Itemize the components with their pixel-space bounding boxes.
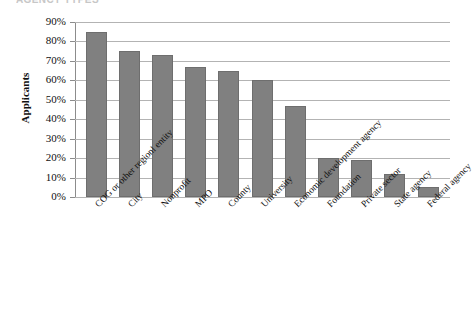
y-tick-label: 40% — [28, 112, 66, 124]
y-tick-label: 70% — [28, 54, 66, 66]
y-tick-label: 20% — [28, 151, 66, 163]
y-tick-label: 0% — [28, 190, 66, 202]
y-tick-label: 60% — [28, 73, 66, 85]
clipped-title-fragment: AGENCY TYPES — [16, 0, 99, 4]
gridline — [75, 22, 450, 23]
y-tick-label: 80% — [28, 34, 66, 46]
bar — [218, 71, 239, 197]
bar — [152, 55, 173, 197]
gridline — [75, 41, 450, 42]
bar — [86, 32, 107, 197]
bar — [252, 80, 273, 197]
y-tick-label: 50% — [28, 93, 66, 105]
y-tick-label: 10% — [28, 171, 66, 183]
y-tick-label: 30% — [28, 132, 66, 144]
y-tick-label: 90% — [28, 15, 66, 27]
